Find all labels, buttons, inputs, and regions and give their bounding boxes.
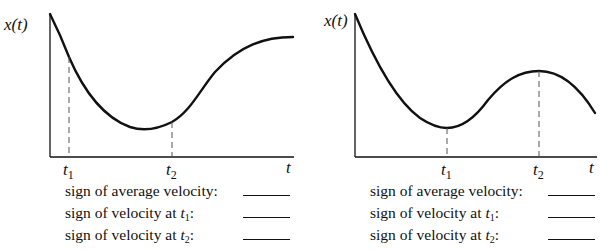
answer-blank[interactable] bbox=[243, 239, 290, 240]
answer-blank[interactable] bbox=[548, 217, 595, 218]
question-label: sign of average velocity: bbox=[370, 180, 523, 202]
right-question-velocity-t1: sign of velocity at t1: bbox=[370, 202, 610, 224]
left-question-velocity-t1: sign of velocity at t1: bbox=[65, 202, 300, 224]
answer-blank[interactable] bbox=[548, 195, 595, 196]
left-question-velocity-t2: sign of velocity at t2: bbox=[65, 224, 300, 246]
question-label: sign of velocity at t2: bbox=[370, 224, 499, 250]
answer-blank[interactable] bbox=[548, 239, 595, 240]
right-question-average-velocity: sign of average velocity: bbox=[370, 180, 610, 202]
right-t2-label: t2 bbox=[533, 160, 544, 182]
right-t1-label: t1 bbox=[441, 160, 452, 182]
left-t1-label: t1 bbox=[63, 160, 74, 182]
answer-blank[interactable] bbox=[243, 217, 290, 218]
left-question-list: sign of average velocity: sign of veloci… bbox=[65, 180, 300, 246]
answer-blank[interactable] bbox=[243, 195, 290, 196]
right-x-axis-label: t bbox=[589, 158, 595, 177]
left-x-axis-label: t bbox=[286, 158, 292, 177]
left-t2-label: t2 bbox=[166, 160, 177, 182]
right-question-velocity-t2: sign of velocity at t2: bbox=[370, 224, 610, 246]
right-position-curve bbox=[355, 14, 595, 128]
question-label: sign of velocity at t2: bbox=[65, 224, 194, 250]
right-y-axis-label: x(t) bbox=[323, 11, 348, 30]
left-position-curve bbox=[50, 14, 293, 129]
right-question-list: sign of average velocity: sign of veloci… bbox=[370, 180, 610, 246]
question-label: sign of average velocity: bbox=[65, 180, 218, 202]
left-y-axis-label: x(t) bbox=[3, 15, 28, 34]
right-graph: x(t) t1 t2 t bbox=[323, 11, 597, 182]
left-graph: x(t) t1 t2 t bbox=[3, 14, 294, 182]
left-question-average-velocity: sign of average velocity: bbox=[65, 180, 300, 202]
